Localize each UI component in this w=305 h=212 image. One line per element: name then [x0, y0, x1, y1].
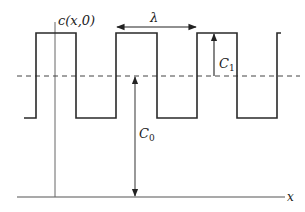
mean-label: C0 — [139, 126, 155, 143]
x-axis-label: x — [287, 190, 294, 204]
square-wave-diagram: x c(x,0) λ C1 C0 — [0, 0, 305, 212]
amplitude-label: C1 — [219, 56, 235, 73]
c-axis-label: c(x,0) — [58, 13, 95, 28]
wavelength-label: λ — [149, 10, 158, 25]
